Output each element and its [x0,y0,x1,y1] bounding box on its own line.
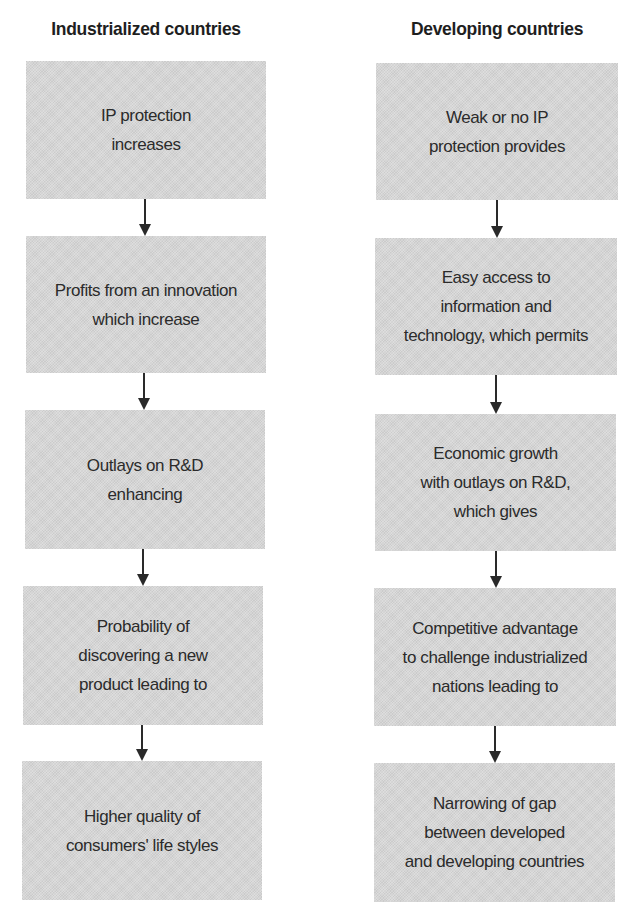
step-text: Easy access to information and technolog… [404,263,588,350]
industrialized-step-1: IP protection increases [26,61,266,199]
step-text: Higher quality of consumers' life styles [66,802,218,860]
arrow-down-icon [489,726,501,763]
arrow-down-icon [490,375,502,414]
developing-step-2: Easy access to information and technolog… [375,238,617,375]
developing-step-1: Weak or no IP protection provides [376,63,618,200]
arrow-down-icon [490,551,502,588]
industrialized-column-title: Industrialized countries [36,18,257,40]
developing-step-5: Narrowing of gap between developed and d… [374,763,615,902]
industrialized-step-4: Probability of discovering a new product… [23,586,263,725]
step-text: Probability of discovering a new product… [78,612,207,699]
developing-step-4: Competitive advantage to challenge indus… [374,588,616,726]
arrow-down-icon [491,200,503,238]
arrow-down-icon [136,725,148,761]
arrow-down-icon [137,549,149,586]
industrialized-step-3: Outlays on R&D enhancing [25,410,265,549]
industrialized-step-5: Higher quality of consumers' life styles [22,761,262,900]
step-text: Profits from an innovation which increas… [55,276,237,334]
industrialized-step-2: Profits from an innovation which increas… [26,236,266,373]
step-text: Outlays on R&D enhancing [87,451,203,509]
developing-step-3: Economic growth with outlays on R&D, whi… [375,414,616,551]
arrow-down-icon [138,373,150,410]
step-text: Weak or no IP protection provides [429,103,565,161]
step-text: Economic growth with outlays on R&D, whi… [421,439,571,526]
arrow-down-icon [139,199,151,236]
developing-column-title: Developing countries [386,18,609,40]
step-text: IP protection increases [101,101,191,159]
step-text: Competitive advantage to challenge indus… [403,614,588,701]
step-text: Narrowing of gap between developed and d… [405,789,584,876]
